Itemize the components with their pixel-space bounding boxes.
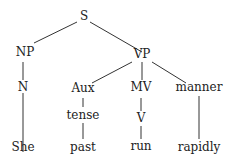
leaf-rapidly: rapidly: [178, 140, 221, 154]
syntax-tree-diagram: S NP VP N Aux MV manner tense V She past…: [0, 0, 230, 163]
node-aux: Aux: [71, 81, 94, 95]
node-manner: manner: [176, 80, 223, 94]
node-mv: MV: [131, 80, 152, 94]
node-tense: tense: [67, 108, 100, 122]
node-np: NP: [16, 45, 35, 59]
node-v: V: [137, 111, 146, 125]
leaf-run: run: [130, 139, 151, 153]
node-n: N: [18, 80, 29, 94]
node-s: S: [80, 9, 88, 23]
leaf-past: past: [70, 140, 96, 154]
node-vp: VP: [134, 47, 151, 61]
edge-s-np: [34, 22, 77, 43]
edge-vp-aux: [92, 62, 132, 83]
leaf-she: She: [11, 140, 34, 154]
